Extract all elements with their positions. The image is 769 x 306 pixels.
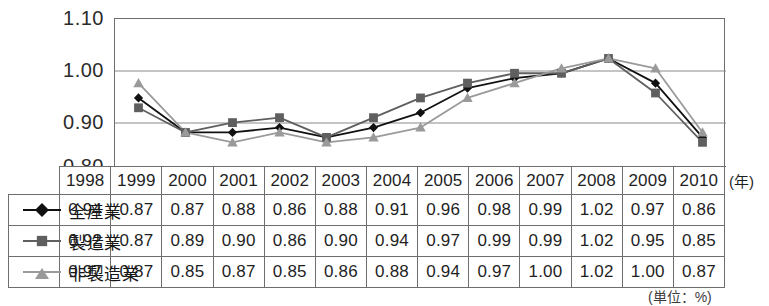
- table-cell: 0.88: [213, 195, 264, 226]
- data-table-container: 1998 1999 2000 2001 2002 2003 2004 2005 …: [8, 166, 725, 283]
- year-header-cell: 2005: [418, 167, 469, 195]
- table-cell: 0.97: [622, 195, 673, 226]
- table-row: 非製造業0.970.870.850.870.850.860.880.940.97…: [9, 257, 725, 288]
- y-axis: 1.10 1.00 0.90 0.80: [0, 0, 112, 180]
- triangle-marker-icon: [133, 78, 143, 87]
- table-cell: 0.98: [469, 195, 520, 226]
- y-tick-label: 1.10: [63, 8, 104, 28]
- table-body: 全産業0.940.870.870.880.860.880.910.960.980…: [9, 195, 725, 288]
- legend-marker: [23, 234, 61, 248]
- table-cell: 0.88: [366, 257, 417, 288]
- table-cell: 1.02: [571, 195, 622, 226]
- table-cell: 0.89: [162, 226, 213, 257]
- table-cell: 0.85: [673, 226, 724, 257]
- table-cell: 0.99: [469, 226, 520, 257]
- year-header-cell: 2006: [469, 167, 520, 195]
- table-cell: 0.94: [418, 257, 469, 288]
- year-header-cell: 2003: [315, 167, 366, 195]
- table-cell: 0.85: [264, 257, 315, 288]
- square-marker-icon: [134, 103, 143, 112]
- diamond-marker-icon: [228, 128, 237, 137]
- table-cell: 1.00: [622, 257, 673, 288]
- table-row: 全産業0.940.870.870.880.860.880.910.960.980…: [9, 195, 725, 226]
- table-cell: 0.86: [315, 257, 366, 288]
- square-marker-icon: [651, 89, 660, 98]
- square-marker-icon: [698, 138, 707, 147]
- table-cell: 0.86: [264, 195, 315, 226]
- y-tick-label: 0.90: [63, 112, 104, 132]
- table-cell: 0.99: [520, 195, 571, 226]
- table-corner-cell: [9, 167, 60, 195]
- square-marker-icon: [228, 118, 237, 127]
- table-cell: 0.85: [162, 257, 213, 288]
- year-header-cell: 2004: [366, 167, 417, 195]
- table-cell: 0.86: [264, 226, 315, 257]
- table-cell: 0.97: [418, 226, 469, 257]
- legend-cell-square: 製造業: [9, 226, 60, 257]
- square-marker-icon: [369, 113, 378, 122]
- table-header-row: 1998 1999 2000 2001 2002 2003 2004 2005 …: [9, 167, 725, 195]
- square-marker-icon: [510, 69, 519, 78]
- table-cell: 0.87: [162, 195, 213, 226]
- unit-footnote: (単位：%): [648, 286, 712, 306]
- diamond-marker-icon: [369, 123, 378, 132]
- table-cell: 0.88: [315, 195, 366, 226]
- triangle-marker-icon: [35, 268, 49, 279]
- square-marker-icon: [463, 79, 472, 88]
- square-marker-icon: [416, 94, 425, 103]
- year-header-cell: 2009: [622, 167, 673, 195]
- table-cell: 0.99: [520, 226, 571, 257]
- table-cell: 0.97: [469, 257, 520, 288]
- legend-marker: [23, 203, 61, 217]
- year-header-cell: 2001: [213, 167, 264, 195]
- year-header-cell: 2010: [673, 167, 724, 195]
- year-header-cell: 1998: [60, 167, 111, 195]
- gridlines: [115, 71, 726, 167]
- legend-cell-triangle: 非製造業: [9, 257, 60, 288]
- table-cell: 0.94: [366, 226, 417, 257]
- year-header-cell: 2000: [162, 167, 213, 195]
- table-cell: 0.96: [418, 195, 469, 226]
- year-header-cell: 1999: [111, 167, 162, 195]
- table-cell: 0.95: [622, 226, 673, 257]
- table-cell: 0.87: [673, 257, 724, 288]
- plot-area: [114, 18, 725, 166]
- table-cell: 0.86: [673, 195, 724, 226]
- table-cell: 0.90: [213, 226, 264, 257]
- year-header-cell: 2008: [571, 167, 622, 195]
- table-row: 製造業0.920.870.890.900.860.900.940.970.990…: [9, 226, 725, 257]
- table-cell: 0.91: [366, 195, 417, 226]
- year-axis-label: (年): [729, 170, 754, 191]
- legend-marker: [23, 265, 61, 279]
- table-cell: 0.87: [213, 257, 264, 288]
- diamond-marker-icon: [416, 108, 425, 117]
- legend-cell-diamond: 全産業: [9, 195, 60, 226]
- year-header-cell: 2002: [264, 167, 315, 195]
- line-chart-svg: [115, 19, 726, 167]
- square-marker-icon: [275, 113, 284, 122]
- y-tick-label: 1.00: [63, 60, 104, 80]
- square-marker-icon: [37, 236, 47, 246]
- triangle-marker-icon: [415, 122, 425, 131]
- table-cell: 1.00: [520, 257, 571, 288]
- table-cell: 1.02: [571, 226, 622, 257]
- table-cell: 0.90: [315, 226, 366, 257]
- table-cell: 1.02: [571, 257, 622, 288]
- data-table: 1998 1999 2000 2001 2002 2003 2004 2005 …: [8, 166, 725, 288]
- year-header-cell: 2007: [520, 167, 571, 195]
- diamond-marker-icon: [35, 203, 49, 217]
